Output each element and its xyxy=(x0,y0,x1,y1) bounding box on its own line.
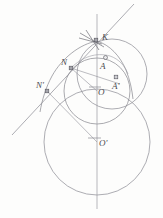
point-label-k: K xyxy=(102,33,108,42)
point-label-a-prime: A' xyxy=(112,82,119,91)
arc-k-to-n-prime xyxy=(40,41,97,112)
point-label-a: A xyxy=(100,62,106,71)
figure-canvas xyxy=(0,0,163,218)
point-label-n-prime: N' xyxy=(36,81,44,90)
radius-o-to-n xyxy=(71,68,97,91)
point-label-n: N xyxy=(61,58,67,67)
point-marker-n xyxy=(69,66,73,70)
point-marker-a xyxy=(104,56,108,60)
point-marker-k xyxy=(94,38,98,42)
point-marker-a-prime xyxy=(114,75,118,79)
radius-o-prime-to-n-prime xyxy=(47,91,97,142)
geometry-figure: K N N' A A' O O' xyxy=(0,0,163,218)
point-marker-n-prime xyxy=(45,89,49,93)
point-label-o: O xyxy=(98,88,105,97)
point-label-o-prime: O' xyxy=(99,139,107,148)
